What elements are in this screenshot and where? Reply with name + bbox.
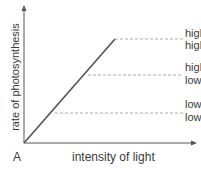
y-axis-label: rate of photosynthesis <box>9 22 21 132</box>
y-axis-arrow-icon <box>22 5 27 11</box>
diagram-canvas <box>0 0 201 169</box>
rate-curve <box>24 39 115 143</box>
x-axis-arrow-icon <box>191 141 197 146</box>
right-label-3-line1: low <box>185 98 201 110</box>
right-label-1-line2: high <box>185 39 201 51</box>
right-label-1-line1: high <box>185 27 201 39</box>
right-label-2-line2: low <box>185 74 201 86</box>
origin-label: A <box>13 151 21 163</box>
right-label-3-line2: low <box>185 111 201 123</box>
right-label-2-line1: high <box>185 61 201 73</box>
x-axis-label: intensity of light <box>72 151 155 163</box>
